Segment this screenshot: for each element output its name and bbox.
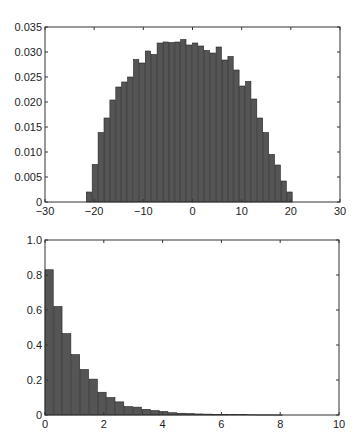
- top-histogram-chart: −30−20−10010203000.0050.0100.0150.0200.0…: [14, 21, 346, 217]
- x-tick-label: 2: [101, 418, 107, 430]
- x-tick-label: −20: [85, 205, 104, 217]
- histogram-bar: [122, 82, 127, 202]
- y-tick-label: 0.4: [27, 339, 42, 351]
- y-tick-label: 0.2: [27, 374, 42, 386]
- histogram-bar: [98, 133, 103, 203]
- y-tick-label: 0.005: [14, 171, 42, 183]
- histogram-bar: [275, 165, 280, 202]
- histogram-bar: [204, 51, 209, 203]
- bottom-histogram-chart: 024681000.20.40.60.81.0: [27, 234, 345, 430]
- x-tick-label: 4: [160, 418, 166, 430]
- histogram-bar: [169, 43, 174, 203]
- histogram-bar: [151, 411, 159, 415]
- histogram-bar: [210, 53, 215, 202]
- histogram-bar: [139, 63, 144, 202]
- x-tick-label: 6: [218, 418, 224, 430]
- y-tick-label: 1.0: [27, 234, 42, 246]
- histogram-bar: [281, 181, 286, 202]
- y-tick-label: 0: [36, 409, 42, 421]
- y-tick-label: 0.6: [27, 304, 42, 316]
- histogram-bar: [246, 82, 251, 203]
- x-tick-label: 20: [285, 205, 297, 217]
- histogram-bar: [116, 402, 124, 415]
- x-tick-label: 0: [42, 418, 48, 430]
- histogram-bar: [142, 409, 150, 415]
- x-tick-label: 10: [236, 205, 248, 217]
- histogram-bar: [160, 412, 168, 416]
- y-tick-label: 0.020: [14, 96, 42, 108]
- histogram-bar: [181, 40, 186, 203]
- histogram-bar: [134, 60, 139, 203]
- y-tick-label: 0.025: [14, 71, 42, 83]
- x-tick-label: 8: [277, 418, 283, 430]
- histogram-bar: [92, 165, 97, 203]
- histogram-bar: [104, 118, 109, 202]
- histogram-bar: [86, 192, 91, 202]
- histogram-bar: [128, 77, 133, 202]
- x-tick-label: 0: [189, 205, 195, 217]
- histogram-bar: [287, 192, 292, 202]
- histogram-bar: [80, 370, 88, 416]
- histogram-bar: [163, 42, 168, 202]
- histogram-bar: [252, 99, 257, 202]
- histogram-bar: [240, 86, 245, 202]
- histogram-bar: [145, 51, 150, 202]
- histogram-bar: [157, 43, 162, 202]
- histogram-bar: [234, 70, 239, 202]
- histogram-bar: [263, 133, 268, 203]
- y-tick-label: 0.015: [14, 121, 42, 133]
- histogram-bar: [107, 398, 115, 416]
- y-tick-label: 0.035: [14, 21, 42, 33]
- y-tick-label: 0.8: [27, 269, 42, 281]
- histogram-bar: [175, 42, 180, 202]
- histogram-bar: [124, 407, 132, 415]
- histogram-bar: [228, 57, 233, 203]
- histogram-bar: [133, 407, 141, 415]
- histogram-bar: [54, 307, 62, 416]
- x-tick-label: 30: [334, 205, 346, 217]
- histogram-bar: [110, 100, 115, 202]
- histogram-bar: [89, 379, 97, 415]
- histogram-bar: [222, 60, 227, 202]
- figure: −30−20−10010203000.0050.0100.0150.0200.0…: [0, 0, 361, 444]
- x-tick-label: −10: [134, 205, 153, 217]
- histogram-bar: [98, 392, 106, 415]
- histogram-bar: [187, 45, 192, 202]
- histogram-bar: [198, 46, 203, 202]
- histogram-bar: [151, 55, 156, 203]
- histogram-bar: [269, 155, 274, 203]
- histogram-bar: [45, 270, 53, 415]
- histogram-bar: [63, 334, 71, 415]
- y-tick-label: 0: [36, 196, 42, 208]
- y-tick-label: 0.010: [14, 146, 42, 158]
- histogram-bar: [71, 355, 79, 415]
- histogram-bar: [116, 87, 121, 202]
- histogram-bar: [257, 118, 262, 202]
- histogram-bar: [216, 47, 221, 202]
- x-tick-label: 10: [333, 418, 345, 430]
- histogram-bar: [193, 43, 198, 202]
- y-tick-label: 0.030: [14, 46, 42, 58]
